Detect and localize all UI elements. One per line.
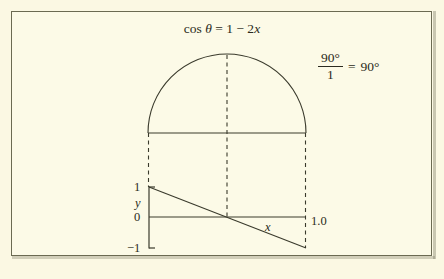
x-axis-name-label: x <box>265 221 271 234</box>
plot-graphics <box>0 0 444 279</box>
y-axis-label-one: 1 <box>134 181 140 194</box>
x-axis-label-max: 1.0 <box>311 215 327 228</box>
y-axis-label-neg-one: −1 <box>127 242 140 255</box>
y-axis-name-label: y <box>135 197 141 210</box>
figure-page: cos θ = 1 − 2x 90° 1 = 90° <box>0 0 444 279</box>
plot-area: 1 y 0 −1 x 1.0 <box>0 0 444 279</box>
y-axis-label-zero: 0 <box>134 211 140 224</box>
